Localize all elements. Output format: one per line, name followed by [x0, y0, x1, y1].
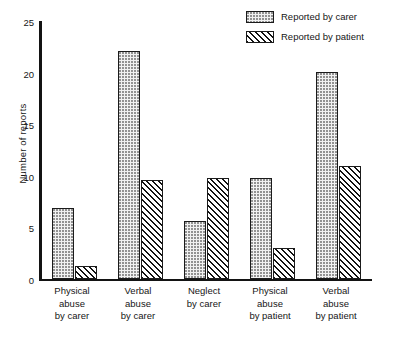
hatched-swatch-icon [246, 31, 274, 43]
y-tick-label: 0 [29, 275, 34, 286]
bar-carer [316, 72, 338, 278]
x-axis-tick-labels: Physicalabuseby carerVerbalabuseby carer… [39, 285, 372, 337]
x-tick-label-line: abuse [295, 298, 377, 311]
legend-label-patient: Reported by patient [281, 31, 364, 42]
y-tick-label: 25 [23, 17, 34, 28]
bar-group [118, 21, 163, 279]
bar-chart: Number of reports 0510152025 Physicalabu… [0, 0, 394, 338]
legend-item-reported-by-carer: Reported by carer [246, 8, 392, 25]
bar-series-container [42, 21, 372, 279]
x-axis-line [39, 279, 372, 282]
y-tick-label: 15 [23, 120, 34, 131]
bar-group [184, 21, 229, 279]
bar-carer [184, 221, 206, 279]
legend-label-carer: Reported by carer [281, 11, 357, 22]
y-tick-label: 5 [29, 223, 34, 234]
x-tick-label-line: Verbal [295, 285, 377, 298]
bar-group [316, 21, 361, 279]
y-tick-label: 20 [23, 68, 34, 79]
y-tick-label: 10 [23, 171, 34, 182]
legend-item-reported-by-patient: Reported by patient [246, 28, 392, 45]
x-tick-label-line: by patient [295, 310, 377, 323]
bar-patient [141, 180, 163, 278]
bar-patient [75, 266, 97, 278]
plot-area: 0510152025 [39, 21, 372, 281]
bar-patient [273, 248, 295, 279]
bar-patient [339, 166, 361, 278]
legend: Reported by carer Reported by patient [246, 8, 392, 48]
y-axis-label: Number of reports [17, 74, 28, 214]
x-tick-label-line: by carer [97, 310, 179, 323]
dotted-swatch-icon [246, 11, 274, 23]
bar-patient [207, 178, 229, 278]
bar-carer [52, 208, 74, 278]
bar-carer [118, 51, 140, 278]
x-tick-label: Verbalabuseby patient [295, 285, 377, 323]
bar-group [250, 21, 295, 279]
bar-carer [250, 178, 272, 278]
bar-group [52, 21, 97, 279]
